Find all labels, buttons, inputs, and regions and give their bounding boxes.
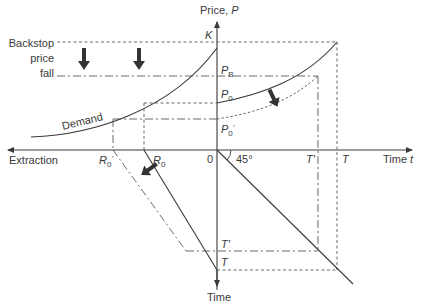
time-axis-label: Time t <box>383 153 414 165</box>
demand-curve <box>31 48 217 137</box>
T-bottom-label: T <box>221 256 229 268</box>
angle-arc <box>227 150 231 160</box>
price-axis-label: Price, P <box>200 4 239 16</box>
45-degree-line <box>217 150 353 284</box>
backstop-annotation-line1: Backstop <box>9 37 54 49</box>
T-prime-top-label: T' <box>306 153 316 165</box>
T-top-label: T <box>342 153 350 165</box>
origin-label: 0 <box>207 153 213 165</box>
P0-prime-label: P0' <box>221 123 235 138</box>
down-arrow-icon <box>133 48 145 70</box>
down-arrow-icon <box>78 48 90 70</box>
backstop-annotation-line2: price <box>30 52 54 64</box>
T-prime-bottom-label: T' <box>221 238 231 250</box>
PB-label: PB <box>221 64 234 79</box>
extraction-axis-label: Extraction <box>9 154 58 166</box>
backstop-annotation-line3: fall <box>40 67 54 79</box>
shift-down-arrow-icon <box>264 87 283 109</box>
backstop-price-diagram: Price, P K PB P0 P0' Backstop price fall… <box>0 0 421 306</box>
lower-time-axis-label: Time <box>207 291 231 303</box>
demand-label: Demand <box>61 110 104 132</box>
K-label: K <box>205 29 213 41</box>
extraction-line-original <box>144 150 217 270</box>
R0-prime-label: R0' <box>99 154 113 169</box>
angle-label: 45° <box>236 153 253 165</box>
price-path-original <box>217 42 337 103</box>
